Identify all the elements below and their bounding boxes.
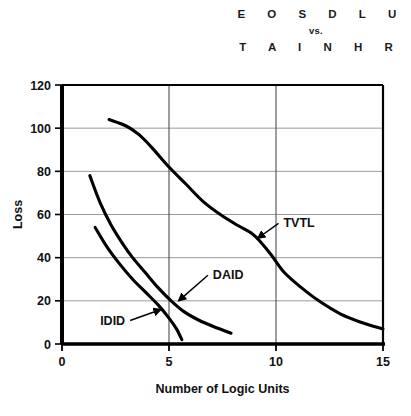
y-tick-label: 40 [37, 251, 51, 265]
line-chart: 020406080100120051015 TVTLDAIDIDID Numbe… [0, 0, 411, 416]
data-series [90, 120, 383, 340]
x-tick-label: 15 [376, 355, 390, 369]
series-label-tvtl: TVTL [283, 216, 315, 230]
series-label-daid: DAID [213, 268, 244, 282]
y-tick-label: 0 [44, 338, 51, 352]
y-tick-label: 100 [30, 122, 51, 136]
callout-leader-tvtl [258, 223, 279, 238]
x-tick-label: 0 [59, 355, 66, 369]
y-tick-label: 20 [37, 294, 51, 308]
x-axis-title: Number of Logic Units [155, 382, 289, 396]
y-axis-title: Loss [11, 200, 25, 229]
chart-canvas: 020406080100120051015 TVTLDAIDIDID Numbe… [0, 0, 411, 416]
callout-leader-daid [179, 275, 208, 301]
series-label-idid: IDID [100, 314, 125, 328]
callout-leader-idid [130, 309, 161, 320]
y-tick-label: 80 [37, 165, 51, 179]
y-tick-label: 60 [37, 208, 51, 222]
x-tick-label: 10 [269, 355, 283, 369]
y-tick-label: 120 [30, 79, 51, 93]
figure-caption [0, 404, 411, 416]
x-tick-label: 5 [166, 355, 173, 369]
